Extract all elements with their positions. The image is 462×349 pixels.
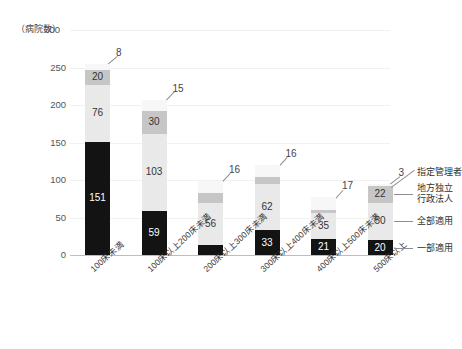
y-tick-label: 100 <box>32 174 66 185</box>
bar-segment-指定管理者 <box>85 64 110 70</box>
legend-label: 地方独立 <box>417 183 453 194</box>
bar-segment-指定管理者 <box>198 181 223 193</box>
bar-segment-指定管理者 <box>311 197 336 210</box>
legend-item-一部適用: 一部適用 <box>417 243 453 254</box>
bar-segment-地方独立行政法人: 20 <box>85 70 110 85</box>
legend-connector-line <box>394 194 413 195</box>
gridline <box>70 68 390 69</box>
bar-segment-指定管理者 <box>142 100 167 111</box>
axis-baseline <box>70 255 390 256</box>
gridline <box>70 218 390 219</box>
gridline <box>70 143 390 144</box>
y-tick-label: 50 <box>32 212 66 223</box>
y-tick-label: 250 <box>32 62 66 73</box>
bar-segment-全部適用: 103 <box>142 134 167 211</box>
gridline <box>70 105 390 106</box>
bar-segment-地方独立行政法人 <box>198 193 223 203</box>
bar-segment-一部適用: 151 <box>85 142 110 255</box>
y-tick-label: 0 <box>32 249 66 260</box>
bar-segment-地方独立行政法人: 22 <box>368 186 393 203</box>
legend-label-line2: 行政法人 <box>417 194 453 205</box>
gridline <box>70 30 390 31</box>
legend-item-地方独立行政法人: 地方独立行政法人 <box>417 183 453 205</box>
bar-segment-指定管理者 <box>368 184 393 186</box>
legend-label: 全部適用 <box>417 216 453 227</box>
bar-segment-指定管理者 <box>255 165 280 177</box>
legend-label: 指定管理者 <box>417 167 462 178</box>
y-tick-label: 150 <box>32 137 66 148</box>
bar-segment-地方独立行政法人: 30 <box>142 111 167 134</box>
legend-item-全部適用: 全部適用 <box>417 216 453 227</box>
bar-segment-全部適用: 76 <box>85 85 110 142</box>
legend-label: 一部適用 <box>417 243 453 254</box>
bar-segment-地方独立行政法人 <box>255 177 280 184</box>
legend-item-指定管理者: 指定管理者 <box>417 167 462 178</box>
bar-1: 1517620 <box>85 0 110 255</box>
bar-2: 5910330 <box>142 0 167 255</box>
legend-connector-line <box>394 221 413 222</box>
legend-connector-line <box>394 248 413 249</box>
y-tick-label: 300 <box>26 24 60 35</box>
y-tick-label: 200 <box>32 99 66 110</box>
